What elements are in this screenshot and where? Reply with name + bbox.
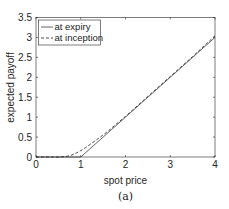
- series-line-1: [36, 36, 215, 157]
- legend-label: at inception: [55, 32, 104, 43]
- plot-area: [36, 36, 215, 157]
- x-axis-label: spot price: [104, 175, 148, 186]
- y-tick-label: 0: [26, 152, 32, 163]
- series-line-0: [36, 37, 215, 157]
- legend: at expiryat inception: [39, 20, 104, 45]
- x-tick-label: 1: [78, 159, 84, 170]
- y-tick-label: 1: [26, 112, 32, 123]
- x-tick-label: 2: [123, 159, 129, 170]
- x-tick-label: 4: [212, 159, 218, 170]
- x-tick-label: 3: [167, 159, 173, 170]
- chart: 0123400.511.522.533.5 at expiryat incept…: [0, 0, 229, 209]
- y-tick-label: 3: [26, 32, 32, 43]
- figure-caption: (a): [118, 190, 133, 203]
- y-axis-label: expected payoff: [5, 52, 16, 123]
- x-tick-label: 0: [33, 159, 39, 170]
- y-tick-label: 2.5: [18, 52, 32, 63]
- y-tick-label: 2: [26, 72, 32, 83]
- y-tick-label: 3.5: [18, 12, 32, 23]
- legend-label: at expiry: [55, 21, 91, 32]
- y-tick-label: 1.5: [18, 92, 32, 103]
- y-tick-label: 0.5: [18, 132, 32, 143]
